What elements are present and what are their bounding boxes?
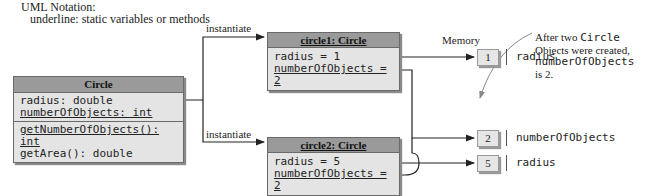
method-getArea: getArea(): double [20,148,177,160]
instantiate-label-bottom: instantiate [206,128,251,140]
class-fields: radius: double numberOfObjects: int [14,93,183,121]
circle2-object-box: circle2: Circle radius = 5 numberOfObjec… [267,137,400,196]
object-fields: radius = 5 numberOfObjects = 2 [268,153,399,195]
uml-notation-subtitle: underline: static variables or methods [21,13,210,25]
annotation-note: After two Circle Objects were created, n… [535,31,634,80]
object-name: circle2: Circle [268,138,399,153]
uml-notation: UML Notation: underline: static variable… [21,1,210,25]
field-numberOfObjects: numberOfObjects: int [20,107,177,119]
memory-cell-divider [506,49,507,65]
numberOfObjects2-pointer [400,138,419,175]
instantiate-edge-top [184,37,264,100]
memory-label-numberOfObjects: numberOfObjects [516,131,615,144]
memory-cell-divider [506,130,507,146]
annotation-line3-code: numberOfObjects [535,56,634,68]
memory-title: Memory [442,34,480,46]
memory-cell-5: 5 [477,155,499,172]
object-fields: radius = 1 numberOfObjects = 2 [268,48,399,90]
annotation-line1-text: After two [535,31,580,43]
memory-cell-divider [506,155,507,171]
instantiate-label-top: instantiate [206,22,251,34]
class-name: Circle [14,77,183,93]
class-methods: getNumberOfObjects(): int getArea(): dou… [14,121,183,162]
annotation-line4: is 2. [535,68,634,80]
method-getNumberOfObjects: getNumberOfObjects(): int [20,124,177,148]
memory-cell-2: 2 [477,130,499,147]
memory-cell-1: 1 [477,49,499,66]
circle-class-box: Circle radius: double numberOfObjects: i… [13,76,184,163]
numberOfObjects1-pointer [400,70,474,138]
memory-label-radius: radius [516,156,556,169]
object-field-numberOfObjects: numberOfObjects = 2 [274,63,393,87]
circle1-object-box: circle1: Circle radius = 1 numberOfObjec… [267,32,400,91]
object-field-numberOfObjects: numberOfObjects = 2 [274,168,393,192]
annotation-line1-code: Circle [580,31,620,44]
object-name: circle1: Circle [268,33,399,48]
